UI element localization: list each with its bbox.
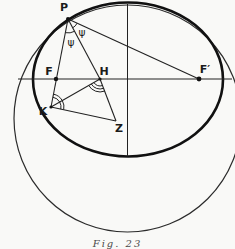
angle-arc-psi-upper: [73, 23, 77, 28]
point-F-dot: [54, 77, 58, 81]
label-point-Z: Z: [115, 122, 123, 135]
angle-arc-K-PKH-1: [53, 97, 60, 102]
point-Fprime-dot: [197, 77, 202, 82]
angle-arc-psi-lower: [65, 31, 74, 33]
label-point-F: F: [45, 65, 53, 78]
figure-caption: Fig. 23: [0, 238, 235, 249]
point-P-dot: [66, 17, 70, 21]
label-angle-psi-upper: ψ: [79, 26, 86, 38]
angle-arc-K-HKZ-1: [60, 102, 61, 109]
point-K-dot: [49, 105, 52, 108]
line-K-H: [51, 79, 100, 107]
line-K-Z: [51, 107, 116, 121]
label-point-P: P: [60, 1, 68, 14]
label-angle-psi-lower: ψ: [68, 36, 75, 48]
label-point-Fprime: F′: [200, 63, 211, 76]
label-point-K: K: [39, 105, 48, 118]
line-P-Fprime: [68, 19, 199, 79]
label-point-H: H: [99, 65, 108, 78]
angle-arc-K-HKZ-2: [62, 101, 64, 110]
